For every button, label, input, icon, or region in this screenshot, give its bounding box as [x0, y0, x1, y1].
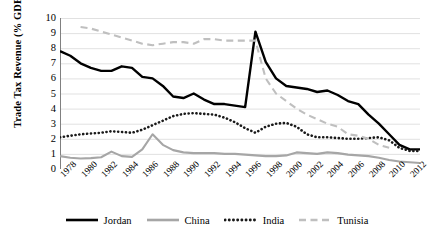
y-tick-label: 0 [34, 164, 56, 174]
plot-svg [60, 18, 420, 169]
legend-swatch-jordan [65, 215, 99, 225]
y-axis-title: Trade Tax Revenue (% GDP) [12, 0, 30, 136]
y-tick-label: 9 [34, 28, 56, 38]
legend-label: Tunisia [337, 215, 368, 226]
legend-label: China [185, 215, 210, 226]
legend-item-india[interactable]: India [224, 215, 285, 226]
y-tick-label: 3 [34, 119, 56, 129]
y-tick-label: 10 [34, 13, 56, 23]
legend-swatch-india [224, 215, 258, 225]
plot-area [60, 18, 420, 169]
y-axis-tick-labels: 012345678910 [34, 18, 56, 169]
series-line-tunisia [81, 27, 390, 148]
y-tick-label: 5 [34, 89, 56, 99]
chart-figure: Trade Tax Revenue (% GDP) 012345678910 1… [0, 0, 433, 235]
y-tick-label: 7 [34, 58, 56, 68]
x-axis-tick-labels: 1978198019821984198619881990199219941996… [60, 172, 428, 208]
legend-label: India [263, 215, 285, 226]
y-tick-label: 4 [34, 104, 56, 114]
legend-swatch-china [146, 215, 180, 225]
legend-label: Jordan [104, 215, 132, 226]
y-tick-label: 1 [34, 149, 56, 159]
series-line-india [60, 113, 420, 151]
legend-item-tunisia[interactable]: Tunisia [298, 215, 368, 226]
y-tick-label: 8 [34, 43, 56, 53]
chart-legend: JordanChinaIndiaTunisia [0, 209, 433, 231]
y-tick-label: 2 [34, 134, 56, 144]
y-tick-label: 6 [34, 73, 56, 83]
legend-item-china[interactable]: China [146, 215, 210, 226]
legend-item-jordan[interactable]: Jordan [65, 215, 132, 226]
legend-swatch-tunisia [298, 215, 332, 225]
